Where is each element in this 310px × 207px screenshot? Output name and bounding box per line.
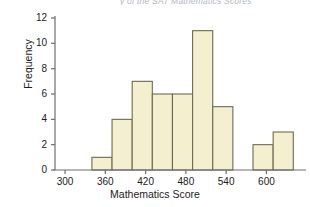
- histogram-bar: [132, 81, 152, 170]
- histogram-figure: y of the SAT Mathematics Scores Frequenc…: [0, 0, 310, 207]
- histogram-bar: [213, 107, 233, 170]
- plot-area: [0, 0, 310, 207]
- histogram-bar: [193, 31, 213, 170]
- histogram-bar: [253, 145, 273, 170]
- histogram-bar: [92, 157, 112, 170]
- histogram-bar: [152, 94, 172, 170]
- histogram-bar: [273, 132, 293, 170]
- histogram-bar: [172, 94, 192, 170]
- bars-group: [92, 31, 293, 170]
- histogram-bar: [112, 119, 132, 170]
